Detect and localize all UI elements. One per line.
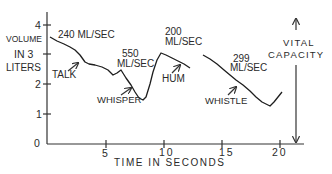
y-label-liters: LITERS — [6, 62, 41, 73]
y-tick-0: 0 — [34, 137, 40, 149]
rate-talk: 240 ML/SEC — [58, 29, 115, 40]
rate-whistle-unit: ML/SEC — [230, 62, 267, 73]
vital-label-line2: CAPACITY — [268, 49, 324, 60]
label-whisper: WHISPER — [97, 94, 141, 105]
label-whistle: WHISTLE — [205, 95, 247, 106]
label-hum: HUM — [162, 73, 185, 84]
x-axis-label: TIME IN SECONDS — [114, 157, 225, 168]
y-tick-2: 2 — [35, 78, 41, 90]
x-tick-20: 20 — [272, 146, 288, 158]
hum-arrow-icon — [172, 65, 180, 73]
vital-label-line1: VITAL — [283, 37, 315, 48]
y-tick-1: 1 — [36, 108, 42, 120]
rate-hum-unit: ML/SEC — [165, 36, 202, 47]
x-tick-5: 5 — [102, 147, 108, 159]
y-label-volume: VOLUME — [6, 34, 42, 44]
vital-capacity-chart: 4 2 1 0 VOLUME IN 3 LITERS 5 10 15 20 TI… — [0, 0, 332, 174]
label-talk: TALK — [52, 69, 77, 80]
rate-whisper-unit: ML/SEC — [117, 58, 154, 69]
y-tick-4: 4 — [35, 19, 41, 31]
y-label-in-3: IN 3 — [14, 48, 33, 60]
whistle-arrow-icon — [228, 87, 236, 95]
